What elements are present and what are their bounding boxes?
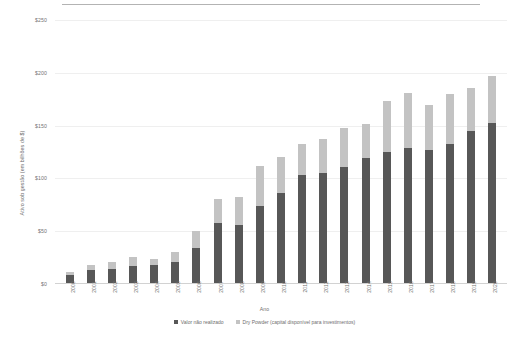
bar-stack bbox=[277, 157, 285, 283]
bar-column bbox=[207, 20, 228, 283]
bar-segment-valor-nao-realizado bbox=[214, 223, 222, 283]
x-axis-tick-label: 2001 bbox=[91, 281, 97, 293]
x-axis-tick-label: 2015 bbox=[387, 281, 393, 293]
x-axis-tick-label: 2020 bbox=[492, 281, 498, 293]
bar-segment-dry-powder bbox=[214, 199, 222, 223]
legend-label: Dry Powder (capital disponível para inve… bbox=[243, 319, 356, 325]
bar-stack bbox=[150, 259, 158, 283]
bar-segment-valor-nao-realizado bbox=[192, 248, 200, 283]
bar-stack bbox=[425, 105, 433, 283]
y-axis-tick-label: $100 bbox=[35, 175, 47, 181]
bar-segment-valor-nao-realizado bbox=[277, 193, 285, 283]
x-axis-tick-label: 2017 bbox=[429, 281, 435, 293]
bar-column bbox=[80, 20, 101, 283]
x-axis-tick-label: 2019 bbox=[471, 281, 477, 293]
x-axis-tick-label: 2009 bbox=[260, 281, 266, 293]
y-axis-tick-label: $200 bbox=[35, 70, 47, 76]
x-axis-tick-label: 2002 bbox=[112, 281, 118, 293]
bar-column bbox=[270, 20, 291, 283]
bar-stack bbox=[214, 199, 222, 283]
bar-stack bbox=[383, 101, 391, 283]
bar-segment-valor-nao-realizado bbox=[235, 225, 243, 283]
bar-column bbox=[376, 20, 397, 283]
x-axis-tick-label: 2008 bbox=[239, 281, 245, 293]
legend-item[interactable]: Dry Powder (capital disponível para inve… bbox=[236, 319, 356, 325]
bar-column bbox=[292, 20, 313, 283]
y-axis-tick-label: $0 bbox=[41, 281, 47, 287]
header-divider bbox=[62, 4, 480, 5]
bar-segment-dry-powder bbox=[256, 166, 264, 206]
bar-segment-valor-nao-realizado bbox=[488, 123, 496, 284]
bar-stack bbox=[340, 128, 348, 283]
bar-stack bbox=[362, 124, 370, 283]
bar-column bbox=[186, 20, 207, 283]
bar-column bbox=[334, 20, 355, 283]
bar-segment-dry-powder bbox=[235, 197, 243, 224]
bar-segment-dry-powder bbox=[340, 128, 348, 167]
x-axis-tick-label: 2014 bbox=[366, 281, 372, 293]
bar-segment-dry-powder bbox=[362, 124, 370, 159]
bar-column bbox=[165, 20, 186, 283]
bar-stack bbox=[446, 94, 454, 283]
bar-column bbox=[144, 20, 165, 283]
bar-segment-valor-nao-realizado bbox=[319, 173, 327, 283]
bar-column bbox=[355, 20, 376, 283]
bar-stack bbox=[192, 231, 200, 283]
bar-segment-valor-nao-realizado bbox=[404, 148, 412, 283]
bar-segment-dry-powder bbox=[404, 93, 412, 148]
bar-column bbox=[418, 20, 439, 283]
bar-segment-dry-powder bbox=[171, 252, 179, 262]
y-axis-tick-label: $150 bbox=[35, 123, 47, 129]
bar-segment-dry-powder bbox=[129, 257, 137, 267]
legend-item[interactable]: Valor não realizado bbox=[174, 319, 224, 325]
x-axis-tick-label: 2000 bbox=[70, 281, 76, 293]
bar-segment-valor-nao-realizado bbox=[467, 131, 475, 283]
bar-stack bbox=[129, 257, 137, 283]
bar-segment-valor-nao-realizado bbox=[425, 150, 433, 283]
bar-column bbox=[101, 20, 122, 283]
bar-segment-valor-nao-realizado bbox=[298, 175, 306, 283]
bar-stack bbox=[171, 252, 179, 283]
bar-stack bbox=[467, 88, 475, 283]
bar-segment-valor-nao-realizado bbox=[340, 167, 348, 283]
bar-segment-dry-powder bbox=[319, 139, 327, 173]
x-axis-tick-label: 2003 bbox=[133, 281, 139, 293]
bar-stack bbox=[235, 197, 243, 283]
x-axis-tick-label: 2005 bbox=[175, 281, 181, 293]
bar-stack bbox=[404, 93, 412, 283]
plot-canvas bbox=[55, 20, 507, 284]
x-axis-tick-label: 2012 bbox=[323, 281, 329, 293]
x-axis-tick-label: 2018 bbox=[450, 281, 456, 293]
bar-column bbox=[249, 20, 270, 283]
bar-stack bbox=[256, 166, 264, 283]
chart-page: Ativo sob gestão (em bilhões de $) $0$50… bbox=[0, 0, 529, 346]
legend-label: Valor não realizado bbox=[181, 319, 224, 325]
x-axis-tick-label: 2013 bbox=[344, 281, 350, 293]
bar-segment-dry-powder bbox=[488, 76, 496, 122]
bar-column bbox=[122, 20, 143, 283]
x-axis-tick-label: 2006 bbox=[196, 281, 202, 293]
y-axis-tick-label: $250 bbox=[35, 17, 47, 23]
x-axis-tick-label: 2016 bbox=[408, 281, 414, 293]
x-axis-tick-label: 2010 bbox=[281, 281, 287, 293]
bar-column bbox=[59, 20, 80, 283]
y-axis-tick-label: $50 bbox=[38, 228, 47, 234]
bar-segment-valor-nao-realizado bbox=[446, 144, 454, 283]
bar-segment-dry-powder bbox=[425, 105, 433, 150]
bar-segment-dry-powder bbox=[108, 262, 116, 269]
x-axis-title: Ano bbox=[0, 306, 529, 312]
bar-column bbox=[461, 20, 482, 283]
bar-column bbox=[440, 20, 461, 283]
bar-column bbox=[313, 20, 334, 283]
legend-swatch bbox=[236, 320, 240, 324]
y-axis-tick-labels: $0$50$100$150$200$250 bbox=[0, 20, 55, 284]
bar-column bbox=[482, 20, 503, 283]
bar-segment-valor-nao-realizado bbox=[362, 158, 370, 283]
bar-column bbox=[397, 20, 418, 283]
bar-stack bbox=[319, 139, 327, 283]
bar-segment-dry-powder bbox=[192, 231, 200, 248]
legend-swatch bbox=[174, 320, 178, 324]
x-axis-tick-label: 2011 bbox=[302, 281, 308, 292]
chart-legend: Valor não realizadoDry Powder (capital d… bbox=[0, 319, 529, 325]
bar-segment-dry-powder bbox=[467, 88, 475, 131]
